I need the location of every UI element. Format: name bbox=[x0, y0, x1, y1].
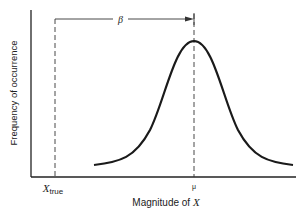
y-axis-label: Frequency of occurrence bbox=[8, 40, 19, 145]
beta-label: β bbox=[117, 14, 123, 25]
mu-tick-label: μ bbox=[192, 183, 196, 191]
x-axis-label: Magnitude of X bbox=[132, 196, 201, 208]
bias-diagram: β Frequency of occurrence Xtrue μ Magnit… bbox=[0, 0, 306, 216]
xtrue-tick-label: Xtrue bbox=[42, 182, 64, 196]
arrowhead-icon bbox=[185, 17, 194, 22]
bell-curve bbox=[94, 41, 293, 165]
